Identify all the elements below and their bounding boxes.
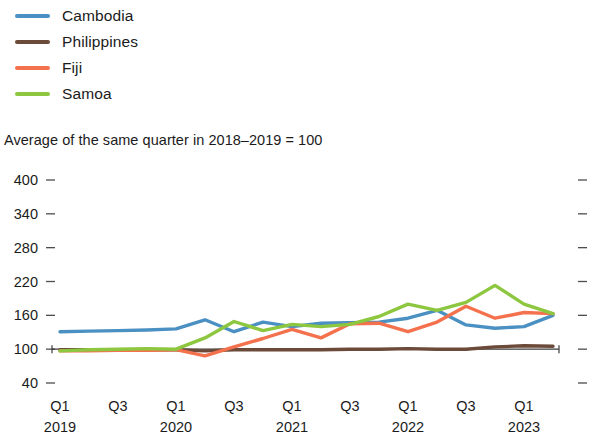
plot-area: 40034028022016010040 — [0, 160, 590, 400]
x-axis-year-label: 2023 — [494, 419, 554, 435]
x-axis-tick-label: Q3 — [436, 398, 496, 414]
legend-label: Samoa — [62, 85, 112, 103]
x-axis-tick-label: Q3 — [204, 398, 264, 414]
chart-legend: Cambodia Philippines Fiji Samoa — [0, 0, 590, 115]
legend-swatch-icon — [15, 40, 50, 44]
x-axis-tick-label: Q1 — [30, 398, 90, 414]
x-axis-tick-label: Q3 — [320, 398, 380, 414]
x-axis-tick-label: Q1 — [494, 398, 554, 414]
y-axis-tick-label: 160 — [2, 307, 38, 323]
x-axis-year-label: 2022 — [378, 419, 438, 435]
legend-swatch-icon — [15, 66, 50, 70]
y-axis-tick-label: 220 — [2, 274, 38, 290]
legend-item-fiji[interactable]: Fiji — [15, 55, 82, 81]
plot-canvas — [0, 160, 590, 400]
chart-subtitle: Average of the same quarter in 2018–2019… — [4, 132, 322, 148]
legend-label: Cambodia — [62, 7, 133, 25]
legend-item-samoa[interactable]: Samoa — [15, 81, 112, 107]
legend-item-cambodia[interactable]: Cambodia — [15, 3, 133, 29]
legend-label: Philippines — [62, 33, 138, 51]
x-axis-year-label: 2020 — [146, 419, 206, 435]
y-axis-tick-label: 280 — [2, 240, 38, 256]
series-line-cambodia — [60, 310, 553, 331]
series-line-samoa — [60, 285, 553, 351]
y-axis-tick-label: 400 — [2, 172, 38, 188]
x-axis-year-label: 2019 — [30, 419, 90, 435]
y-axis-tick-label: 340 — [2, 206, 38, 222]
legend-swatch-icon — [15, 14, 50, 18]
legend-swatch-icon — [15, 92, 50, 96]
x-axis-tick-label: Q3 — [88, 398, 148, 414]
legend-item-philippines[interactable]: Philippines — [15, 29, 138, 55]
legend-label: Fiji — [62, 59, 82, 77]
x-axis-tick-label: Q1 — [262, 398, 322, 414]
y-axis-tick-label: 100 — [2, 341, 38, 357]
y-axis-tick-label: 40 — [2, 375, 38, 391]
x-axis-labels: Q12019Q3Q12020Q3Q12021Q3Q12022Q3Q12023 — [0, 398, 590, 441]
x-axis-tick-label: Q1 — [378, 398, 438, 414]
line-chart: Cambodia Philippines Fiji Samoa Average … — [0, 0, 590, 441]
x-axis-tick-label: Q1 — [146, 398, 206, 414]
x-axis-year-label: 2021 — [262, 419, 322, 435]
